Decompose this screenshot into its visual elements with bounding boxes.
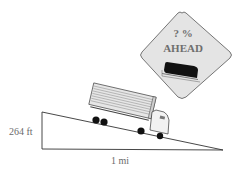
incline-triangle bbox=[42, 112, 223, 150]
sign-grade-text: ? % bbox=[173, 27, 192, 39]
height-label: 264 ft bbox=[9, 126, 33, 137]
grade-diagram: ? % AHEAD bbox=[0, 0, 239, 175]
base-label: 1 mi bbox=[111, 155, 129, 166]
sign-ahead-text: AHEAD bbox=[163, 42, 203, 54]
warning-sign: ? % AHEAD bbox=[141, 12, 232, 99]
